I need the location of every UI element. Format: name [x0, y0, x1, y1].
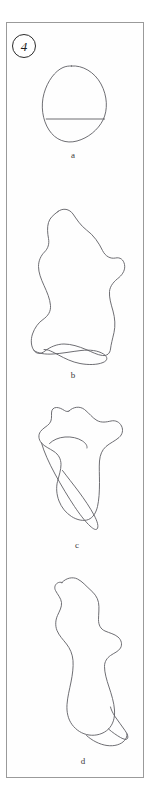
figure-number-label: 4: [21, 40, 28, 53]
panel-frame: [6, 22, 144, 778]
shape-label-d: d: [76, 757, 90, 766]
shape-label-a: a: [66, 151, 80, 160]
shape-label-c: c: [70, 541, 84, 550]
shape-label-b: b: [66, 371, 80, 380]
figure-number-badge: 4: [12, 34, 36, 58]
figure-panel: 4 a b c d: [0, 0, 166, 792]
